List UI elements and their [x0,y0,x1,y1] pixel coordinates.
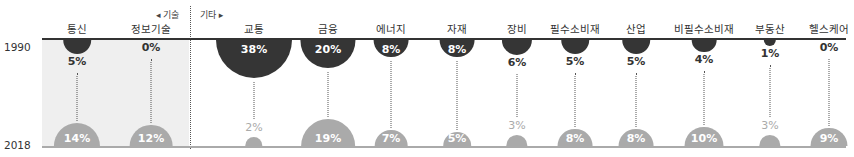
column-label: 금융 [318,21,338,36]
connector-line [704,71,705,124]
value-1990: 0% [142,41,161,54]
year-label-2018: 2018 [4,139,31,151]
column-label: 통신 [67,21,87,36]
value-2018: 14% [64,132,90,145]
value-1990: 8% [382,43,401,56]
semicircle-1990 [502,40,532,55]
connector-line [328,72,329,118]
connector-line [151,59,152,123]
baseline-2018 [42,146,846,148]
value-2018: 5% [448,132,467,145]
value-1990: 1% [761,47,780,60]
connector-line [829,59,830,126]
column-label: 교통 [244,21,264,36]
year-label-1990: 1990 [4,41,31,53]
semicircle-1990 [561,40,589,54]
value-1990: 5% [68,55,87,68]
value-1990: 20% [315,43,341,56]
value-1990: 6% [508,56,527,69]
connector-line [77,73,78,121]
value-1990: 8% [448,43,467,56]
semicircle-1990 [764,40,776,46]
semicircle-2018 [245,137,262,146]
column-label: 부동산 [755,21,785,36]
column-label: 비필수소비재 [674,21,734,36]
semicircle-2018 [759,135,780,146]
semicircle-1990 [692,40,717,52]
connector-line [636,73,637,127]
semicircle-2018 [506,135,527,146]
connector-line [575,73,576,127]
value-2018: 10% [691,132,717,145]
group-label-other: 기타 ▸ [200,8,223,21]
value-2018: 2% [245,121,262,134]
column-label: 에너지 [376,21,406,36]
column-label: 헬스케어 [809,21,849,36]
column-label: 정보기술 [131,21,171,36]
value-2018: 7% [382,132,401,145]
column-label: 자재 [447,21,467,36]
column-label: 산업 [626,21,646,36]
connector-line [457,61,458,130]
value-2018: 9% [820,132,839,145]
value-1990: 0% [820,41,839,54]
value-2018: 12% [138,132,164,145]
connector-line [254,82,255,119]
value-1990: 5% [627,55,646,68]
value-2018: 3% [508,119,525,132]
column-label: 필수소비재 [550,21,600,36]
value-1990: 4% [695,53,714,66]
connector-line [391,61,392,127]
value-2018: 3% [761,119,778,132]
value-2018: 8% [627,132,646,145]
column-label: 장비 [507,21,527,36]
connector-line [517,74,518,117]
value-2018: 19% [315,132,341,145]
connector-line [770,65,771,117]
value-1990: 38% [241,43,267,56]
value-1990: 5% [566,55,585,68]
group-label-tech: ◂ 기술 [156,8,179,21]
value-2018: 8% [566,132,585,145]
group-divider [190,6,191,149]
semicircle-1990 [622,40,650,54]
